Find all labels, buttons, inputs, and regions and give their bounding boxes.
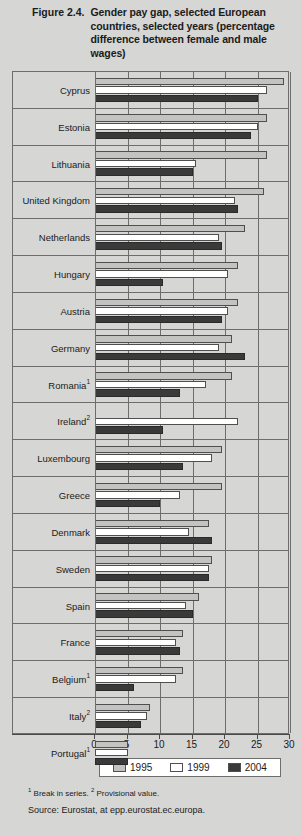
chart-row: France (13, 624, 288, 661)
bar-1999 (95, 270, 228, 277)
figure-title: Gender pay gap, selected European countr… (91, 6, 293, 60)
category-label: Estonia (13, 121, 95, 132)
chart-row: Germany (13, 330, 288, 367)
category-label: United Kingdom (13, 195, 95, 206)
bar-group (95, 109, 288, 145)
bar-2004 (95, 205, 238, 212)
bar-1999 (95, 86, 267, 93)
bar-group (95, 330, 288, 366)
chart-row: Luxembourg (13, 440, 288, 477)
chart-row: Denmark (13, 514, 288, 551)
bar-1999 (95, 639, 176, 646)
bar-2004 (95, 758, 128, 765)
bar-1999 (95, 160, 196, 167)
chart-row: Cyprus (13, 72, 288, 109)
footnote-text-2: Provisional value. (94, 789, 159, 798)
category-footnote-marker: 1 (86, 673, 90, 680)
bar-1995 (95, 114, 267, 121)
bar-group (95, 514, 288, 550)
bar-group (95, 477, 288, 513)
bar-1995 (95, 556, 212, 563)
bar-group (95, 256, 288, 292)
category-label: Luxembourg (13, 453, 95, 464)
bar-2004 (95, 463, 183, 470)
bar-group (95, 146, 288, 182)
chart-row: Austria (13, 293, 288, 330)
bar-1995 (95, 483, 222, 490)
bar-2004 (95, 279, 163, 286)
category-label: Hungary (13, 269, 95, 280)
chart-row: Spain (13, 588, 288, 625)
category-label: Ireland2 (13, 416, 95, 427)
bar-group (95, 403, 288, 439)
bar-1995 (95, 741, 128, 748)
chart-rows: CyprusEstoniaLithuaniaUnited KingdomNeth… (13, 72, 288, 733)
bar-2004 (95, 610, 193, 617)
category-label: Austria (13, 305, 95, 316)
category-label: Germany (13, 342, 95, 353)
bar-1995 (95, 446, 222, 453)
bar-group (95, 182, 288, 218)
chart-row: Netherlands (13, 219, 288, 256)
bar-1995 (95, 335, 232, 342)
bar-2004 (95, 574, 209, 581)
category-label: France (13, 637, 95, 648)
bar-1999 (95, 418, 238, 425)
category-label: Spain (13, 600, 95, 611)
gridline (290, 72, 291, 733)
category-label: Sweden (13, 563, 95, 574)
bar-1999 (95, 307, 228, 314)
bar-2004 (95, 242, 222, 249)
figure-source: Source: Eurostat, at epp.eurostat.ec.eur… (28, 804, 293, 816)
chart-row: Hungary (13, 256, 288, 293)
chart-row: Italy2 (13, 698, 288, 735)
footnote-text-1: Break in series. (31, 789, 88, 798)
bar-1999 (95, 491, 180, 498)
chart-row: Ireland2 (13, 403, 288, 440)
bar-group (95, 367, 288, 403)
bar-1999 (95, 675, 176, 682)
bar-1999 (95, 528, 189, 535)
bar-1995 (95, 372, 232, 379)
chart-row: United Kingdom (13, 182, 288, 219)
category-label: Cyprus (13, 84, 95, 95)
bar-2004 (95, 95, 258, 102)
category-label: Belgium1 (13, 674, 95, 685)
category-label: Italy2 (13, 710, 95, 721)
bar-group (95, 588, 288, 624)
bar-1995 (95, 630, 183, 637)
bar-1999 (95, 344, 219, 351)
bar-2004 (95, 500, 160, 507)
bar-1999 (95, 234, 219, 241)
category-label: Netherlands (13, 232, 95, 243)
category-footnote-marker: 2 (86, 415, 90, 422)
bar-group (95, 698, 288, 734)
bar-group (95, 72, 288, 108)
figure-number: Figure 2.4. (10, 6, 85, 20)
bar-1999 (95, 454, 212, 461)
bar-1995 (95, 593, 199, 600)
figure-title-block: Figure 2.4. Gender pay gap, selected Eur… (0, 6, 301, 60)
bar-1999 (95, 602, 186, 609)
bar-group (95, 219, 288, 255)
chart-row: Lithuania (13, 146, 288, 183)
bar-1999 (95, 565, 209, 572)
category-footnote-marker: 2 (86, 709, 90, 716)
bar-1999 (95, 381, 206, 388)
bar-2004 (95, 721, 141, 728)
category-footnote-marker: 1 (86, 378, 90, 385)
bar-1995 (95, 299, 238, 306)
category-label: Portugal1 (13, 748, 95, 759)
bar-1999 (95, 197, 235, 204)
bar-1995 (95, 225, 245, 232)
bar-2004 (95, 537, 212, 544)
category-label: Lithuania (13, 158, 95, 169)
bar-1995 (95, 704, 150, 711)
figure-footnotes: 1 Break in series. 2 Provisional value. … (28, 788, 293, 816)
chart-row: Belgium1 (13, 661, 288, 698)
bar-group (95, 661, 288, 697)
chart-row: Estonia (13, 109, 288, 146)
category-label: Romania1 (13, 379, 95, 390)
chart-plot-frame: CyprusEstoniaLithuaniaUnited KingdomNeth… (12, 71, 289, 734)
bar-1995 (95, 151, 267, 158)
